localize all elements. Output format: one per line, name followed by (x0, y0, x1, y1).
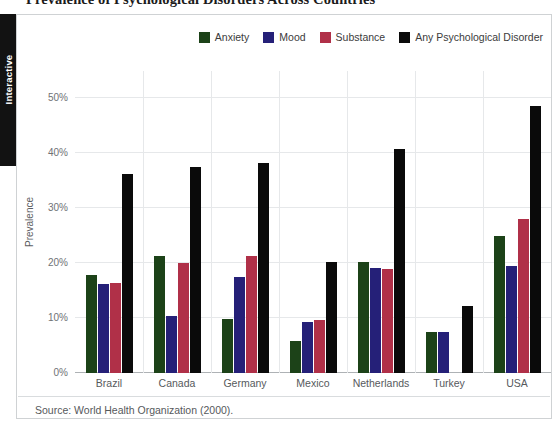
bar-usa-substance[interactable] (518, 219, 529, 373)
bar-netherlands-mood[interactable] (370, 268, 381, 373)
interactive-rail[interactable]: Interactive (0, 14, 16, 166)
legend-swatch-icon (399, 32, 410, 43)
y-axis-label: Prevalence (24, 197, 35, 247)
x-tick-label-usa: USA (483, 377, 551, 389)
plot-area: Prevalence 0%10%20%30%40%50% (75, 71, 551, 373)
bar-mexico-any-psychological-disorder[interactable] (326, 262, 337, 373)
bar-netherlands-anxiety[interactable] (358, 262, 369, 373)
legend-label: Mood (279, 31, 305, 43)
y-tick-label: 0% (54, 367, 68, 378)
x-tick-label-germany: Germany (211, 377, 279, 389)
bar-brazil-mood[interactable] (98, 284, 109, 373)
bar-usa-anxiety[interactable] (494, 236, 505, 373)
bar-turkey-anxiety[interactable] (426, 332, 437, 373)
bar-groups (75, 71, 551, 373)
bar-usa-mood[interactable] (506, 266, 517, 373)
bar-group-mexico (279, 71, 347, 373)
legend-label: Any Psychological Disorder (415, 31, 543, 43)
y-tick-label: 10% (48, 312, 68, 323)
bar-netherlands-any-psychological-disorder[interactable] (394, 149, 405, 373)
legend-item-any-psychological-disorder[interactable]: Any Psychological Disorder (399, 31, 543, 43)
legend-label: Anxiety (215, 31, 249, 43)
bar-group-usa (483, 71, 551, 373)
interactive-rail-label: Interactive (3, 34, 14, 126)
bar-germany-substance[interactable] (246, 256, 257, 374)
bar-brazil-substance[interactable] (110, 283, 121, 373)
bar-usa-any-psychological-disorder[interactable] (530, 106, 541, 373)
legend-swatch-icon (263, 32, 274, 43)
bar-group-canada (143, 71, 211, 373)
x-axis-labels: BrazilCanadaGermanyMexicoNetherlandsTurk… (75, 377, 551, 389)
bar-group-brazil (75, 71, 143, 373)
legend-swatch-icon (320, 32, 331, 43)
y-tick-label: 40% (48, 147, 68, 158)
bar-brazil-any-psychological-disorder[interactable] (122, 174, 133, 373)
bar-netherlands-substance[interactable] (382, 269, 393, 373)
bar-group-germany (211, 71, 279, 373)
x-tick-label-mexico: Mexico (279, 377, 347, 389)
legend-item-substance[interactable]: Substance (320, 31, 386, 43)
legend-item-anxiety[interactable]: Anxiety (199, 31, 249, 43)
bar-canada-substance[interactable] (178, 263, 189, 373)
bar-germany-mood[interactable] (234, 277, 245, 373)
bar-mexico-mood[interactable] (302, 322, 313, 373)
bar-turkey-any-psychological-disorder[interactable] (462, 306, 473, 373)
x-tick-label-netherlands: Netherlands (347, 377, 415, 389)
bar-brazil-anxiety[interactable] (86, 275, 97, 373)
chart-legend: AnxietyMoodSubstanceAny Psychological Di… (17, 31, 543, 43)
legend-item-mood[interactable]: Mood (263, 31, 305, 43)
bar-mexico-substance[interactable] (314, 320, 325, 373)
x-tick-label-turkey: Turkey (415, 377, 483, 389)
bar-canada-mood[interactable] (166, 316, 177, 373)
legend-label: Substance (336, 31, 386, 43)
bar-canada-anxiety[interactable] (154, 256, 165, 373)
footer-divider (18, 396, 550, 397)
x-tick-label-canada: Canada (143, 377, 211, 389)
x-tick-label-brazil: Brazil (75, 377, 143, 389)
page-title: Prevalence of Psychological Disorders Ac… (26, 0, 375, 8)
bar-group-netherlands (347, 71, 415, 373)
bar-group-turkey (415, 71, 483, 373)
bar-turkey-mood[interactable] (438, 332, 449, 373)
y-tick-label: 30% (48, 202, 68, 213)
y-tick-label: 20% (48, 257, 68, 268)
bar-mexico-anxiety[interactable] (290, 341, 301, 373)
bar-germany-anxiety[interactable] (222, 319, 233, 373)
bar-canada-any-psychological-disorder[interactable] (190, 167, 201, 373)
bar-germany-any-psychological-disorder[interactable] (258, 163, 269, 373)
chart-card: AnxietyMoodSubstanceAny Psychological Di… (16, 14, 552, 419)
source-note: Source: World Health Organization (2000)… (35, 404, 233, 416)
legend-swatch-icon (199, 32, 210, 43)
y-tick-label: 50% (48, 92, 68, 103)
